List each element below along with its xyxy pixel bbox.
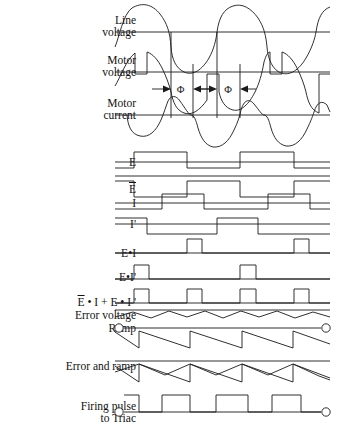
- signal-e-and-i-waveform: [115, 239, 330, 253]
- firing-terminal-left-icon: [115, 408, 123, 416]
- signal-e-bar-waveform: [115, 181, 330, 197]
- signal-sum-waveform: [115, 289, 330, 303]
- ramp-terminal-left-icon: [115, 324, 123, 332]
- phi-label-left: Φ: [177, 84, 185, 95]
- signal-e-waveform: [115, 152, 330, 168]
- arrowhead-left-icon: [240, 85, 248, 92]
- motor-voltage-waveform: [115, 52, 330, 114]
- error-and-ramp-ripple: [115, 364, 330, 380]
- timing-diagram-figure: LinevoltageMotorvoltageMotorcurrentEEII'…: [0, 0, 343, 440]
- phi-label-right: Φ: [224, 84, 232, 95]
- trace-signal-i: [115, 194, 330, 209]
- signal-i-prime-waveform: [115, 218, 330, 234]
- trace-signal-e: [115, 152, 330, 168]
- trace-ramp: [115, 324, 330, 348]
- error-and-ramp-sawtooth: [115, 364, 330, 382]
- phase-angle-markers: Φ Φ: [152, 32, 256, 118]
- waveform-plot-area: Φ Φ: [0, 0, 343, 440]
- error-voltage-waveform: [115, 311, 330, 318]
- trace-signal-e-and-i: [115, 239, 330, 253]
- trace-signal-e-and-i-prime: [115, 265, 330, 279]
- signal-i-waveform: [115, 194, 330, 209]
- firing-terminal-right-icon: [322, 408, 330, 416]
- ramp-terminal-right-icon: [322, 324, 330, 332]
- motor-current-waveform: [127, 97, 330, 148]
- trace-signal-i-prime: [115, 218, 330, 234]
- trace-motor-voltage: [115, 52, 330, 114]
- signal-e-and-i-prime-waveform: [115, 265, 330, 279]
- firing-pulse-waveform: [124, 395, 321, 412]
- ramp-waveform: [115, 331, 330, 348]
- trace-firing-pulse: [115, 395, 330, 416]
- arrowhead-right-icon: [209, 85, 217, 92]
- trace-signal-sum: [115, 289, 330, 303]
- trace-error-voltage: [115, 310, 330, 318]
- waveform-svg: Φ Φ: [0, 0, 343, 440]
- trace-error-and-ramp: [115, 361, 330, 382]
- trace-motor-current: [115, 97, 330, 148]
